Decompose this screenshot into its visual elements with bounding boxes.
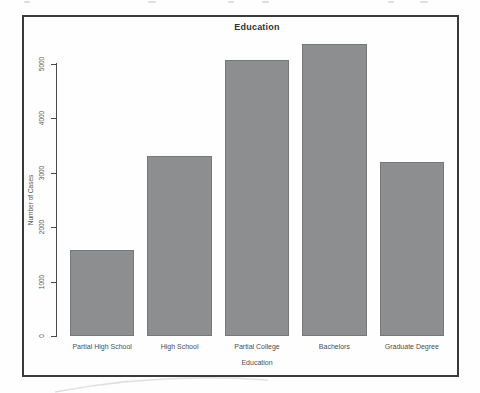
y-axis-line	[56, 63, 57, 337]
y-tick-label: 0	[38, 334, 45, 338]
bar-graduate-degree	[380, 162, 445, 336]
y-axis-title: Number of Cases	[27, 175, 34, 226]
x-axis-title: Education	[57, 359, 457, 366]
scan-artifact	[228, 1, 234, 3]
y-tick-label: 3000	[38, 165, 45, 179]
y-tick-label: 5000	[38, 56, 45, 70]
y-tick-mark	[51, 227, 56, 228]
y-tick-label: 1000	[38, 274, 45, 288]
y-tick-mark	[51, 173, 56, 174]
bar-partial-college	[225, 60, 290, 336]
y-tick-mark	[51, 64, 56, 65]
bar-partial-high-school	[70, 250, 135, 336]
bar-bachelors	[302, 44, 367, 336]
scan-artifact	[148, 1, 156, 3]
bar-high-school	[147, 156, 212, 336]
scan-artifact	[420, 1, 428, 3]
y-tick-label: 4000	[38, 111, 45, 125]
y-tick-mark	[51, 282, 56, 283]
y-tick-mark	[51, 118, 56, 119]
chart-title: Education	[57, 22, 457, 32]
y-tick-mark	[51, 336, 56, 337]
scan-artifact	[24, 1, 30, 3]
scan-artifact	[262, 1, 269, 3]
x-category-label: Graduate Degree	[362, 343, 462, 350]
scan-artifact	[388, 1, 394, 3]
figure-canvas: Education Number of Cases 01000200030004…	[0, 0, 480, 393]
y-tick-label: 2000	[38, 220, 45, 234]
